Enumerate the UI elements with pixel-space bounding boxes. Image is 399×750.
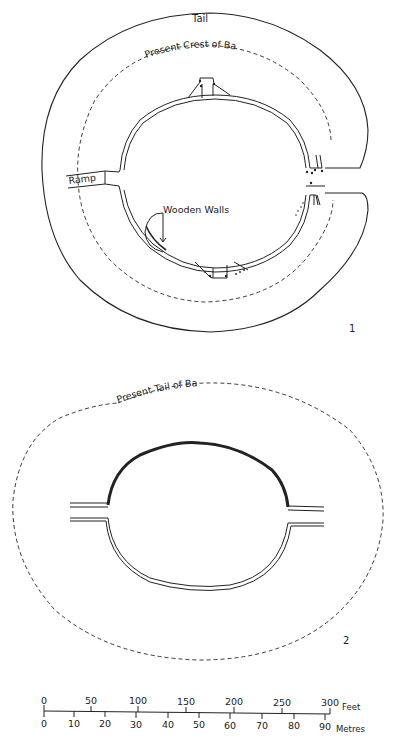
inner-enclosure-wall-inner: [124, 99, 306, 268]
post-marker: [239, 271, 241, 273]
metres-tick-label: 90: [319, 721, 331, 732]
metres-tick-label: 70: [256, 720, 268, 731]
west-entrance-upper: [70, 503, 108, 507]
feet-tick-label: 150: [177, 696, 195, 707]
post-marker: [200, 85, 202, 87]
wall-lower-outer: [70, 518, 324, 586]
feet-tick-label: 0: [41, 695, 47, 706]
post-marker: [243, 269, 245, 271]
metres-tick-label: 50: [193, 719, 205, 730]
tail-of-bank-label: Present Tail of Bank: [0, 0, 198, 405]
post-marker: [314, 169, 316, 171]
feet-tick-label: 100: [129, 695, 147, 706]
figure-2-enclosure-plan: Present Tail of Bank 2: [0, 0, 383, 660]
earthwork-plan-diagram: Tail Present Crest of Bank Ramp Wooden W…: [0, 0, 399, 750]
metres-tick-label: 10: [68, 718, 80, 729]
scale-line: [44, 711, 330, 714]
metres-tick-label: 40: [162, 719, 174, 730]
post-marker: [300, 206, 302, 208]
metres-tick-label: 20: [99, 718, 111, 729]
excavated-wall-upper: [108, 443, 288, 508]
crest-of-bank-dashed: [78, 45, 333, 302]
post-marker: [311, 172, 313, 174]
post-marker: [295, 214, 297, 216]
post-marker: [199, 80, 201, 82]
post-marker: [204, 271, 206, 273]
metres-tick-label: 60: [224, 720, 236, 731]
ramp-label: Ramp: [68, 172, 97, 186]
metres-tick-label: 80: [288, 720, 300, 731]
post-marker: [213, 83, 215, 85]
tail-label: Tail: [191, 13, 208, 24]
scale-bar: 0 50 100 150 200 250 300 0 10 20 30 40 5…: [41, 695, 365, 734]
post-marker: [302, 202, 304, 204]
crest-label: Present Crest of Bank: [0, 0, 237, 60]
metres-tick-label: 0: [41, 718, 47, 729]
figure-1-number: 1: [349, 323, 355, 334]
feet-tick-label: 200: [225, 696, 243, 707]
post-marker: [235, 273, 237, 275]
feet-tick-label: 300: [321, 697, 339, 708]
post-marker: [310, 182, 312, 184]
inner-enclosure-wall-outer: [120, 95, 310, 272]
post-marker: [306, 171, 308, 173]
wooden-walls-label: Wooden Walls: [163, 204, 229, 215]
feet-unit-label: Feet: [342, 702, 361, 712]
post-marker: [297, 210, 299, 212]
east-entrance: [306, 155, 325, 205]
tail-of-bank-dashed: [13, 383, 383, 660]
figure-2-number: 2: [343, 635, 349, 646]
post-marker: [209, 275, 211, 277]
metres-unit-label: Metres: [336, 724, 365, 734]
east-entrance-upper: [288, 506, 324, 511]
feet-tick-label: 250: [273, 697, 291, 708]
figure-1-enclosure-plan: Tail Present Crest of Bank Ramp Wooden W…: [0, 0, 368, 334]
feet-tick-label: 50: [85, 695, 97, 706]
post-marker: [321, 170, 323, 172]
metres-tick-label: 30: [130, 719, 142, 730]
post-marker: [225, 275, 227, 277]
